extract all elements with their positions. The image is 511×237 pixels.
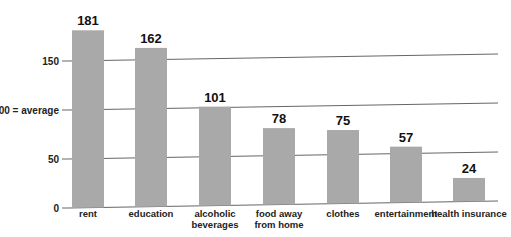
value-label: 101 — [204, 90, 226, 105]
category-label: from home — [254, 219, 303, 230]
bar-clothes — [327, 130, 359, 204]
bar-entertainment — [390, 147, 422, 203]
y-tick-label: 100 = average — [0, 105, 59, 116]
y-tick-label: 50 — [48, 154, 60, 165]
category-label: beverages — [191, 219, 238, 230]
category-label: rent — [79, 208, 98, 219]
value-label: 75 — [336, 113, 350, 128]
bar-alcoholic-beverages — [199, 107, 231, 206]
gridline-150 — [68, 54, 498, 61]
y-axis: 050100 = average150 — [0, 56, 68, 214]
bar-education — [135, 48, 167, 207]
gridline-100 — [68, 103, 498, 110]
category-label: clothes — [326, 208, 359, 219]
category-label: health insurance — [431, 208, 507, 219]
bar-chart: 050100 = average150 18116210178755724 re… — [0, 0, 511, 237]
category-label: education — [129, 208, 174, 219]
category-label: food away — [256, 208, 303, 219]
bar-health-insurance — [453, 178, 485, 202]
value-label: 78 — [272, 111, 286, 126]
x-axis-labels: renteducationalcoholicbeveragesfood away… — [79, 208, 507, 230]
bar-rent — [72, 30, 104, 207]
y-tick-label: 0 — [53, 203, 59, 214]
value-label: 24 — [462, 161, 477, 176]
category-label: entertainment — [375, 208, 439, 219]
value-label: 162 — [140, 31, 162, 46]
category-label: alcoholic — [194, 208, 235, 219]
bar-food-away-from-home — [263, 128, 295, 204]
value-label: 57 — [399, 130, 413, 145]
y-tick-label: 150 — [42, 56, 59, 67]
value-label: 181 — [77, 13, 99, 28]
